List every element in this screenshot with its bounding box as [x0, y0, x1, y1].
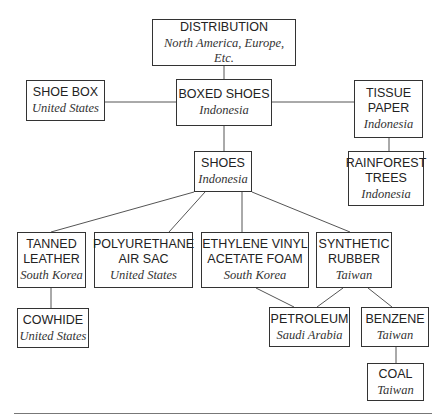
node-name: RAINFOREST TREES: [346, 156, 427, 186]
node-origin: United States: [32, 101, 99, 116]
node-tissue-paper: TISSUE PAPER Indonesia: [354, 80, 423, 138]
node-distribution: DISTRIBUTION North America, Europe, Etc.: [152, 19, 296, 66]
node-boxed-shoes: BOXED SHOES Indonesia: [176, 79, 272, 126]
node-origin: United States: [19, 329, 86, 344]
node-origin: South Korea: [224, 268, 286, 283]
node-origin: Indonesia: [198, 172, 247, 187]
node-origin: South Korea: [20, 268, 82, 283]
node-polyurethane-air-sac: POLYURETHANE AIR SAC United States: [94, 232, 193, 288]
node-origin: Indonesia: [199, 103, 248, 118]
node-rainforest-trees: RAINFOREST TREES Indonesia: [348, 151, 424, 206]
node-cowhide: COWHIDE United States: [17, 308, 89, 348]
node-name: DISTRIBUTION: [180, 20, 268, 35]
node-coal: COAL Taiwan: [367, 363, 424, 401]
edge-synthetic-rubber-benzene: [368, 288, 392, 307]
node-synthetic-rubber: SYNTHETIC RUBBER Taiwan: [316, 232, 392, 288]
node-origin: North America, Europe, Etc.: [153, 36, 295, 66]
node-name: BOXED SHOES: [179, 87, 270, 102]
node-name: POLYURETHANE AIR SAC: [93, 237, 194, 267]
node-origin: Taiwan: [336, 268, 372, 283]
node-shoe-box: SHOE BOX United States: [26, 80, 105, 121]
node-benzene: BENZENE Taiwan: [361, 307, 429, 347]
edge-eva-foam-petroleum: [256, 288, 294, 307]
node-shoes: SHOES Indonesia: [194, 151, 252, 192]
supply-chain-diagram: DISTRIBUTION North America, Europe, Etc.…: [0, 0, 445, 419]
node-name: TANNED LEATHER: [23, 237, 80, 267]
node-name: BENZENE: [365, 312, 424, 327]
node-origin: United States: [110, 268, 177, 283]
node-origin: Taiwan: [377, 383, 413, 398]
node-eva-foam: ETHYLENE VINYL ACETATE FOAM South Korea: [201, 232, 309, 288]
node-name: SYNTHETIC RUBBER: [319, 237, 390, 267]
node-name: SHOES: [201, 156, 245, 171]
node-origin: Indonesia: [361, 187, 410, 202]
edge-synthetic-rubber-petroleum: [317, 288, 343, 307]
node-origin: Saudi Arabia: [276, 328, 342, 343]
node-petroleum: PETROLEUM Saudi Arabia: [269, 307, 350, 347]
node-name: PETROLEUM: [271, 312, 349, 327]
node-name: COWHIDE: [23, 313, 83, 328]
node-name: COAL: [378, 367, 412, 382]
node-name: TISSUE PAPER: [366, 86, 411, 116]
node-name: SHOE BOX: [33, 85, 98, 100]
node-origin: Taiwan: [377, 328, 413, 343]
node-origin: Indonesia: [364, 117, 413, 132]
edge-shoes-tanned-leather: [51, 192, 194, 232]
bottom-divider: [14, 413, 432, 414]
edge-shoes-synthetic-rubber: [252, 192, 350, 232]
node-tanned-leather: TANNED LEATHER South Korea: [17, 232, 86, 288]
node-name: ETHYLENE VINYL ACETATE FOAM: [202, 237, 308, 267]
